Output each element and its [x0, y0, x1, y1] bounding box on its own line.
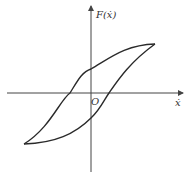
hysteresis-lower-branch — [24, 44, 155, 144]
origin-label: O — [91, 96, 99, 107]
hysteresis-diagram: F(ẋ) ẋ O — [0, 0, 189, 178]
hysteresis-upper-branch — [24, 44, 155, 144]
y-axis-label: F(ẋ) — [95, 9, 116, 20]
x-axis-label: ẋ — [175, 97, 181, 108]
